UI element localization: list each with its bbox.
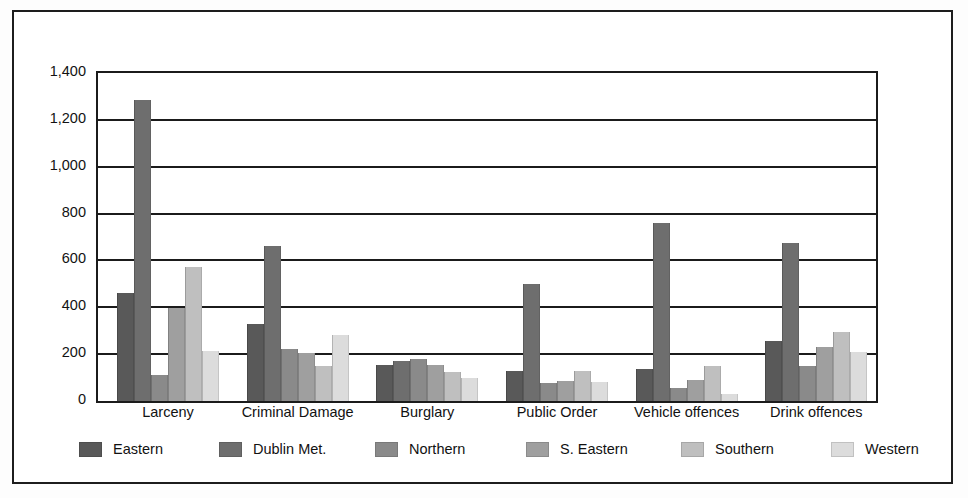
legend-swatch-icon: [375, 442, 398, 457]
bar: [799, 366, 816, 401]
y-tick-label: 200: [8, 345, 86, 360]
bar-group: [636, 73, 738, 401]
bar: [247, 324, 264, 401]
legend-item[interactable]: Northern: [375, 438, 465, 460]
bar: [523, 284, 540, 401]
y-tick-label: 1,200: [8, 111, 86, 126]
bar: [315, 366, 332, 401]
y-tick-label: 1,000: [8, 157, 86, 172]
legend-label: Eastern: [113, 442, 163, 457]
bar: [410, 359, 427, 401]
y-axis-tick-labels: 02004006008001,0001,2001,400: [0, 71, 86, 403]
bar: [506, 371, 523, 401]
bar-group: [247, 73, 349, 401]
bar-group: [765, 73, 867, 401]
bar-group: [376, 73, 478, 401]
y-tick-label: 600: [8, 251, 86, 266]
y-tick-label: 400: [8, 298, 86, 313]
bar: [653, 223, 670, 401]
bar: [151, 375, 168, 401]
bar: [636, 369, 653, 401]
legend-item[interactable]: Dublin Met.: [219, 438, 326, 460]
x-tick-label: Larceny: [142, 404, 194, 420]
x-tick-label: Vehicle offences: [634, 404, 739, 420]
legend-swatch-icon: [681, 442, 704, 457]
bar: [117, 293, 134, 401]
legend-label: S. Eastern: [560, 442, 628, 457]
bar: [461, 378, 478, 401]
bar: [185, 267, 202, 401]
bar-group: [506, 73, 608, 401]
bar: [444, 372, 461, 401]
bar: [574, 371, 591, 401]
x-axis-category-labels: LarcenyCriminal DamageBurglaryPublic Ord…: [96, 404, 878, 428]
bar: [833, 332, 850, 401]
bar: [427, 365, 444, 401]
bar: [704, 366, 721, 401]
legend-swatch-icon: [79, 442, 102, 457]
legend-label: Western: [865, 442, 919, 457]
bar: [264, 246, 281, 401]
bar: [782, 243, 799, 401]
bar: [687, 380, 704, 401]
bar: [591, 382, 608, 401]
x-tick-label: Drink offences: [770, 404, 862, 420]
bar: [298, 353, 315, 401]
y-tick-label: 800: [8, 204, 86, 219]
x-tick-label: Public Order: [517, 404, 598, 420]
bar: [850, 352, 867, 401]
bar: [540, 383, 557, 401]
bars-layer: [98, 73, 876, 401]
legend-swatch-icon: [526, 442, 549, 457]
bar: [557, 381, 574, 401]
plot-wrapper: 02004006008001,0001,2001,400 LarcenyCrim…: [0, 0, 968, 498]
bar: [816, 347, 833, 401]
chart-figure: 02004006008001,0001,2001,400 LarcenyCrim…: [0, 0, 968, 498]
y-tick-label: 0: [8, 392, 86, 407]
legend-swatch-icon: [831, 442, 854, 457]
bar: [202, 351, 219, 401]
bar: [376, 365, 393, 401]
legend-item[interactable]: Western: [831, 438, 919, 460]
legend-label: Dublin Met.: [253, 442, 326, 457]
legend-label: Southern: [715, 442, 774, 457]
bar: [393, 361, 410, 401]
bar: [721, 394, 738, 401]
bar: [168, 308, 185, 401]
bar: [281, 349, 298, 401]
legend-item[interactable]: Southern: [681, 438, 774, 460]
legend-label: Northern: [409, 442, 465, 457]
chart-legend: EasternDublin Met.NorthernS. EasternSout…: [52, 438, 922, 464]
bar: [670, 388, 687, 401]
legend-item[interactable]: Eastern: [79, 438, 163, 460]
x-tick-label: Burglary: [400, 404, 454, 420]
y-tick-label: 1,400: [8, 64, 86, 79]
x-tick-label: Criminal Damage: [242, 404, 354, 420]
legend-item[interactable]: S. Eastern: [526, 438, 628, 460]
bar: [134, 100, 151, 401]
bar-group: [117, 73, 219, 401]
bar: [332, 335, 349, 401]
bar: [765, 341, 782, 401]
legend-swatch-icon: [219, 442, 242, 457]
